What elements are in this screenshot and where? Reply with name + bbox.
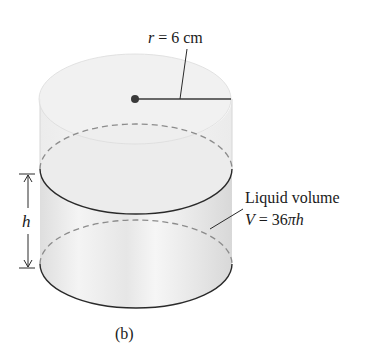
radius-label: r = 6 cm	[148, 29, 203, 46]
volume-formula: V = 36πh	[245, 211, 304, 228]
center-dot	[131, 95, 139, 103]
height-label: h	[22, 212, 31, 231]
liquid-volume-label: Liquid volume	[245, 189, 340, 207]
subfigure-label: (b)	[115, 325, 134, 343]
liquid-body	[40, 124, 232, 308]
cylinder-diagram: r = 6 cm h Liquid volume V = 36πh (b)	[0, 0, 385, 359]
